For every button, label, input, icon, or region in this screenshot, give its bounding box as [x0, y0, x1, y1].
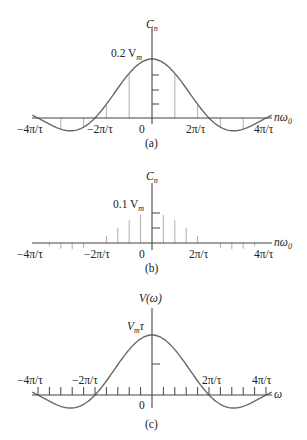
x-tick-label-c: −2π/τ: [72, 374, 98, 386]
x-tick-label-c: −4π/τ: [17, 374, 43, 386]
peak-label-b: 0.1 Vm: [113, 198, 144, 213]
x-tick-label-a: 2π/τ: [186, 123, 206, 135]
panel-c: V(ω) Vmτ ω −4π/τ −2π/τ 0 2π/τ 4π/τ (c): [17, 292, 282, 431]
x-tick-label-b: 2π/τ: [189, 248, 209, 260]
x-tick-label-c: 4π/τ: [252, 374, 272, 386]
x-tick-label-a: −2π/τ: [87, 123, 113, 135]
x-tick-label-b: 0: [139, 248, 145, 260]
x-tick-label-b: −4π/τ: [17, 248, 43, 260]
caption-b: (b): [145, 262, 159, 275]
x-axis-label-c: ω: [274, 388, 282, 400]
x-axis-label-b: nω0: [274, 236, 292, 251]
panel-a: Cn 0.2 Vm nω0 −4π/τ −2π/τ 0 2π/τ 4π/τ (a…: [17, 18, 292, 150]
y-axis-label-b: Cn: [146, 170, 158, 185]
caption-c: (c): [145, 418, 158, 431]
panel-b: Cn 0.1 Vm nω0 −4π/τ −2π/τ 0 2π/τ 4π/τ (b…: [17, 170, 292, 275]
x-tick-label-b: −2π/τ: [84, 248, 110, 260]
caption-a: (a): [145, 137, 158, 150]
x-tick-label-a: 4π/τ: [254, 123, 274, 135]
x-axis-label-a: nω0: [274, 111, 292, 126]
x-tick-label-a: 0: [139, 123, 145, 135]
x-tick-label-b: 4π/τ: [254, 248, 274, 260]
x-tick-label-c: 2π/τ: [202, 374, 222, 386]
fourier-spectrum-figure: Cn 0.2 Vm nω0 −4π/τ −2π/τ 0 2π/τ 4π/τ (a…: [0, 0, 307, 440]
peak-label-c: Vmτ: [127, 320, 145, 335]
x-tick-label-c: 0: [139, 399, 145, 411]
x-tick-label-a: −4π/τ: [17, 123, 43, 135]
y-axis-label-c: V(ω): [139, 292, 162, 305]
peak-label-a: 0.2 Vm: [111, 47, 142, 62]
